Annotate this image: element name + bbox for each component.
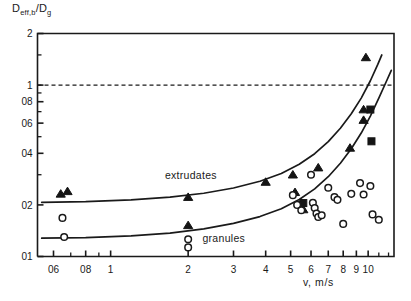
data-point-circle: [348, 191, 355, 198]
data-point-circle: [340, 221, 347, 228]
x-tick-label: 8: [340, 264, 346, 275]
data-point-circle: [61, 234, 68, 241]
curve-label: extrudates: [165, 169, 217, 181]
figure-container: Deff,b/Dg v, m/s 01020406081206081234567…: [0, 0, 411, 301]
scatter-plot: 010204060812060812345678910extrudatesgra…: [0, 0, 411, 301]
data-point-triangle: [184, 221, 193, 228]
data-point-triangle: [261, 178, 270, 185]
x-tick-label: 4: [263, 264, 269, 275]
curve-label: granules: [202, 232, 245, 244]
data-point-circle: [298, 207, 305, 214]
data-point-circle: [308, 171, 315, 178]
y-tick-label: 08: [21, 96, 33, 107]
x-tick-label: 06: [48, 264, 60, 275]
data-point-circle: [357, 180, 364, 187]
data-point-triangle: [63, 187, 72, 194]
data-point-square: [368, 138, 375, 145]
y-tick-label: 06: [21, 118, 33, 129]
data-point-circle: [185, 236, 192, 243]
x-tick-label: 1: [108, 264, 114, 275]
data-point-circle: [334, 197, 341, 204]
y-tick-label: 04: [21, 148, 33, 159]
x-tick-label: 3: [231, 264, 237, 275]
data-point-circle: [367, 183, 374, 190]
data-point-circle: [376, 216, 383, 223]
x-tick-label: 5: [288, 264, 294, 275]
y-tick-label: 1: [27, 80, 33, 91]
x-tick-label: 08: [80, 264, 92, 275]
x-tick-label: 6: [308, 264, 314, 275]
data-point-circle: [360, 191, 367, 198]
x-tick-label: 9: [354, 264, 360, 275]
y-tick-label: 01: [21, 251, 33, 262]
y-tick-label: 02: [21, 200, 33, 211]
data-point-square: [367, 106, 374, 113]
data-point-triangle: [361, 53, 370, 60]
data-point-circle: [318, 212, 325, 219]
data-point-triangle: [314, 163, 323, 170]
x-tick-label: 7: [325, 264, 331, 275]
x-tick-label: 10: [363, 264, 375, 275]
data-point-circle: [59, 215, 66, 222]
data-point-circle: [185, 244, 192, 251]
data-point-circle: [325, 184, 332, 191]
x-tick-label: 2: [185, 264, 191, 275]
data-point-circle: [369, 211, 376, 218]
fit-curve-granules: [42, 70, 392, 238]
data-point-triangle: [288, 171, 297, 178]
data-point-circle: [290, 192, 297, 199]
data-point-triangle: [359, 116, 368, 123]
y-tick-label: 2: [27, 28, 33, 39]
